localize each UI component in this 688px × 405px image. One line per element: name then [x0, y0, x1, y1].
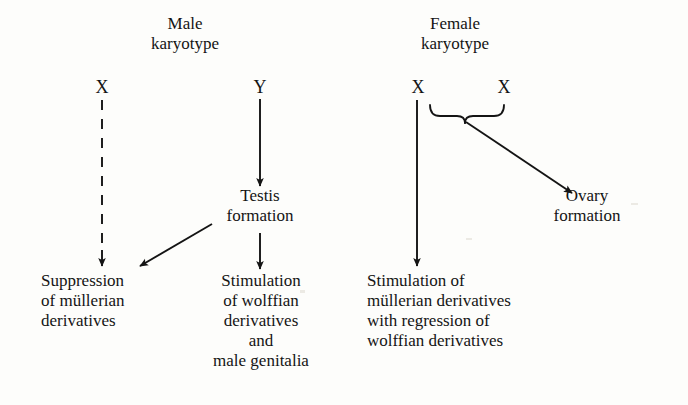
node-stimulation-mullerian: Stimulation of müllerian derivatives wit…: [367, 271, 607, 351]
node-testis-formation: Testis formation: [200, 186, 320, 226]
connector-testis-to-suppression: [140, 224, 212, 266]
heading-male-karyotype: Male karyotype: [115, 14, 255, 54]
scan-fleck: [631, 203, 638, 205]
node-suppression-mullerian: Suppression of müllerian derivatives: [41, 271, 193, 331]
heading-female-karyotype: Female karyotype: [385, 14, 525, 54]
node-ovary-formation: Ovary formation: [526, 186, 648, 226]
allele-male-y: Y: [240, 77, 280, 98]
xx-pairing-brace: [430, 105, 504, 123]
allele-male-x: X: [82, 77, 122, 98]
sex-determination-diagram: Male karyotype Female karyotype X Y X X …: [0, 0, 688, 405]
allele-female-x-right: X: [484, 77, 524, 98]
node-stimulation-wolffian: Stimulation of wolffian derivatives and …: [186, 271, 336, 371]
connector-brace-to-ovary: [466, 122, 572, 193]
allele-female-x-left: X: [398, 77, 438, 98]
scan-fleck: [466, 238, 472, 240]
scan-fleck: [300, 290, 305, 293]
